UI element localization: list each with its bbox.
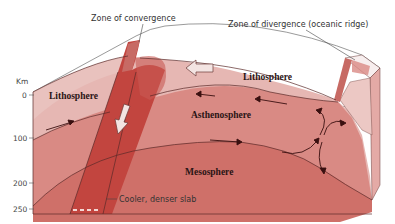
label-divergence: Zone of divergence (oceanic ridge)	[228, 20, 368, 29]
label-asthenosphere: Asthenosphere	[191, 110, 251, 120]
depth-tick-0: 0	[22, 91, 27, 100]
label-mesosphere: Mesosphere	[185, 167, 233, 177]
depth-tick-250: 250	[13, 205, 28, 214]
label-convergence: Zone of convergence	[91, 14, 176, 23]
depth-tick-200: 200	[13, 179, 28, 188]
label-slab: Cooler, denser slab	[119, 195, 196, 204]
label-lithosphere-right: Lithosphere	[243, 72, 292, 82]
plate-tectonics-diagram: Zone of convergence Zone of divergence (…	[0, 0, 395, 224]
label-lithosphere-left: Lithosphere	[49, 91, 98, 101]
depth-unit: Km	[16, 77, 28, 86]
depth-tick-100: 100	[13, 134, 28, 143]
